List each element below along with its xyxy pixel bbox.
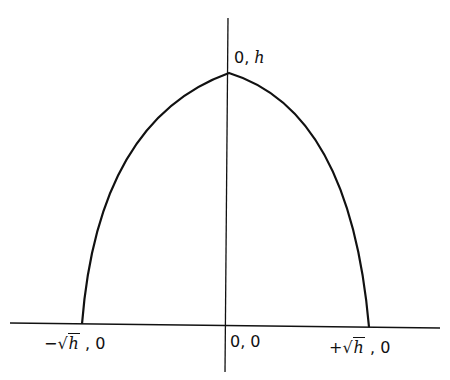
parabola-diagram xyxy=(0,0,450,380)
sqrt-icon: √ xyxy=(342,338,352,357)
right-root-label: +√h , 0 xyxy=(329,338,390,357)
right-root-post: , 0 xyxy=(365,338,390,357)
y-axis xyxy=(225,18,228,372)
sqrt-icon: √ xyxy=(57,334,67,353)
left-root-var: h xyxy=(68,333,80,353)
origin-label: 0, 0 xyxy=(230,332,261,351)
minus-sign: − xyxy=(44,334,57,353)
left-root-post: , 0 xyxy=(80,334,105,353)
plus-sign: + xyxy=(329,338,342,357)
vertex-label: 0, h xyxy=(234,48,265,67)
right-root-var: h xyxy=(353,337,365,357)
left-root-label: −√h , 0 xyxy=(44,334,105,353)
vertex-label-text: 0, xyxy=(234,48,254,67)
vertex-label-var: h xyxy=(254,48,264,67)
